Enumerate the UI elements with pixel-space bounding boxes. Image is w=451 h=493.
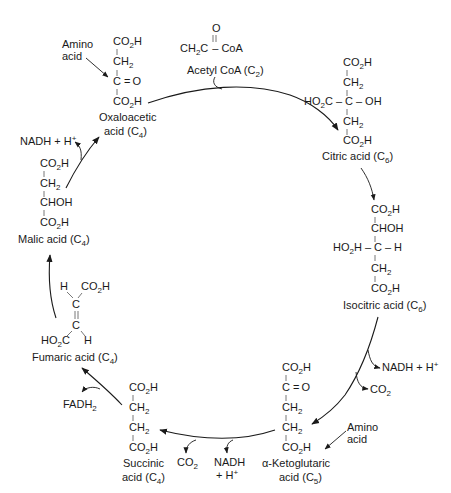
svg-text:C=O: C=O — [113, 75, 141, 87]
arrow-nadh-malic — [75, 142, 81, 160]
arrow-fumaric-to-malic — [49, 255, 56, 318]
svg-text:H: H — [60, 280, 68, 292]
acetyl-coa-label: Acetyl CoA (C2) — [187, 64, 264, 79]
citric-label: Citric acid (C6) — [322, 150, 393, 165]
svg-text:CO2H: CO2H — [282, 361, 311, 376]
arrow-co2-isocitric — [356, 372, 368, 389]
co2-isocitric: CO2 — [370, 383, 392, 398]
svg-text:CO2H: CO2H — [40, 216, 69, 231]
svg-text:CH2: CH2 — [343, 76, 364, 91]
svg-text:C: C — [72, 298, 80, 310]
svg-text:CO2H: CO2H — [113, 95, 142, 110]
svg-text:CO2H: CO2H — [282, 441, 311, 456]
svg-text:acid (C4): acid (C4) — [104, 125, 147, 140]
svg-text:CH2: CH2 — [40, 177, 61, 192]
svg-text:Amino: Amino — [347, 421, 378, 433]
alpha-ketoglutaric-label: α-Ketoglutaric — [262, 457, 331, 469]
citric-acid: CO2H CH2 HO2C–C–OH CH2 CO2H Citric acid … — [304, 56, 393, 165]
nadh-isocitric: NADH + H+ — [382, 360, 439, 373]
oxaloacetic-acid: CO2H CH2 C=O CO2H Oxaloacetic acid (C4) — [99, 35, 157, 140]
svg-text:CHOH: CHOH — [40, 196, 72, 208]
isocitric-label: Isocitric acid (C6) — [343, 299, 426, 314]
amino-acid-top: Amino acid — [62, 38, 108, 77]
svg-text:CHOH: CHOH — [371, 222, 403, 234]
nadh-malic: NADH + H+ — [20, 134, 77, 147]
svg-text:CO2H: CO2H — [129, 381, 158, 396]
co2-ketoglutaric: CO2 — [177, 456, 199, 471]
svg-text:CH2: CH2 — [343, 115, 364, 130]
svg-text:CO2H: CO2H — [343, 56, 372, 71]
oxaloacetic-label: Oxaloacetic — [99, 111, 157, 123]
svg-text:acid: acid — [62, 50, 82, 62]
svg-text:CO2H: CO2H — [129, 441, 158, 456]
acetyl-coa: O CH2C–CoA Acetyl CoA (C2) — [180, 22, 264, 79]
acetyl-formula: CH2C–CoA — [180, 42, 243, 57]
arrow-citric-to-isocitric — [361, 168, 374, 200]
svg-text:CH2: CH2 — [129, 421, 150, 436]
arrow-nadh-isocitric — [368, 350, 380, 368]
arrow-oxaloacetic-to-citric — [148, 87, 338, 130]
succinic-acid: CO2H CH2 CH2 CO2H Succinic acid (C4) — [122, 381, 165, 486]
svg-text:H: H — [84, 334, 92, 346]
svg-text:HO2C: HO2C — [41, 334, 70, 349]
acetyl-oxygen: O — [212, 22, 221, 34]
arrow-nadh-ketoglutaric — [227, 440, 233, 453]
svg-text:acid (C5): acid (C5) — [279, 471, 322, 486]
fumaric-label: Fumaric acid (C4) — [32, 351, 118, 366]
arrow-fadh2 — [82, 387, 100, 392]
svg-text:CO2H: CO2H — [371, 203, 400, 218]
svg-text:C: C — [72, 319, 80, 331]
fadh2: FADH2 — [63, 398, 97, 413]
svg-text:CH2: CH2 — [371, 262, 392, 277]
malic-acid: CO2H CH2 CHOH CO2H Malic acid (C4) — [18, 157, 90, 248]
svg-text:acid: acid — [347, 433, 367, 445]
arrow-co2-ketoglutaric — [186, 440, 196, 453]
svg-text:CO2H: CO2H — [81, 280, 110, 295]
succinic-label: Succinic — [123, 457, 164, 469]
svg-text:CH2: CH2 — [282, 421, 303, 436]
arrow-ketoglutaric-to-succinic — [160, 430, 275, 438]
svg-text:CH2: CH2 — [113, 55, 134, 70]
svg-text:HO2H–C–H: HO2H–C–H — [333, 241, 402, 256]
svg-text:Amino: Amino — [62, 38, 93, 50]
amino-acid-bottom: Amino acid — [325, 421, 378, 449]
isocitric-acid: CO2H CHOH HO2H–C–H CH2 CO2H Isocitric ac… — [333, 203, 426, 314]
alpha-ketoglutaric-acid: CO2H C=O CH2 CH2 CO2H α-Ketoglutaric aci… — [262, 361, 331, 486]
arrow-isocitric-to-ketoglutaric — [312, 317, 378, 424]
fumaric-acid: H CO2H C C HO2C H Fumaric acid (C4) — [32, 280, 118, 366]
nadh-ketoglutaric: NADH — [214, 456, 245, 468]
krebs-cycle-diagram: O CH2C–CoA Acetyl CoA (C2) CO2H CH2 C=O … — [0, 0, 451, 493]
svg-text:C=O: C=O — [282, 381, 310, 393]
malic-label: Malic acid (C4) — [18, 233, 90, 248]
svg-text:CH2: CH2 — [282, 401, 303, 416]
svg-text:CH2: CH2 — [129, 401, 150, 416]
svg-text:acid (C4): acid (C4) — [122, 471, 165, 486]
svg-text:CO2H: CO2H — [40, 157, 69, 172]
svg-text:CO2H: CO2H — [343, 134, 372, 149]
svg-text:CO2H: CO2H — [113, 35, 142, 50]
svg-text:CO2H: CO2H — [371, 282, 400, 297]
svg-text:+ H+: + H+ — [216, 468, 238, 481]
